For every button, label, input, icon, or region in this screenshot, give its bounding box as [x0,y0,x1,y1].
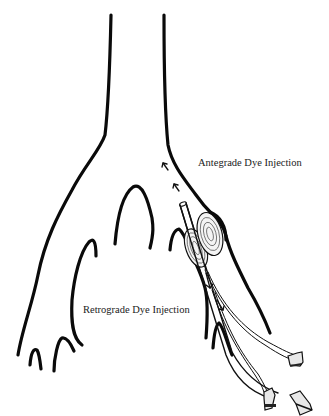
middle-branch-peak [115,186,153,248]
antegrade-arrow-2 [173,184,179,191]
vessel-diagram [0,0,329,416]
retrograde-dye-injection-label: Retrograde Dye Injection [83,305,190,316]
hub-large [290,391,312,415]
antegrade-dye-injection-label: Antegrade Dye Injection [198,158,302,169]
bottom-left-peak-2 [54,338,74,371]
antegrade-arrow-1 [162,163,168,170]
trunk-right-wall [164,15,270,333]
hub-upper [288,352,303,367]
inner-left-branch [72,240,96,345]
bottom-left-peak-1 [30,350,41,369]
